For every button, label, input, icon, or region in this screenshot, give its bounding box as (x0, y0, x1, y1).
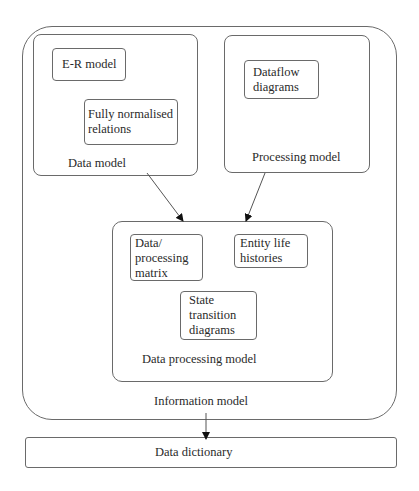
arrow-data-model-to-dpm (147, 173, 183, 221)
arrow-processing-model-to-dpm (246, 173, 265, 221)
connector-arrows (0, 0, 419, 491)
